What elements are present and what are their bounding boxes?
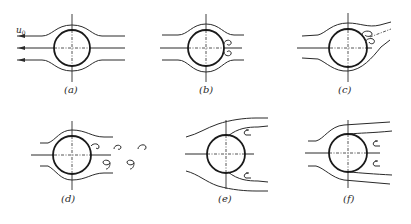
panel-label-e: (e) [218,193,232,204]
panel-e: (e) [185,118,268,204]
vortex-lower-icon [244,173,251,178]
vortex-upper-icon [244,130,251,135]
panel-label-f: (f) [343,193,355,204]
panel-label-d: (d) [61,193,75,204]
vortex-lower-icon [373,161,380,166]
arrow-icon [18,46,25,50]
vortex-lower-icon [103,160,110,169]
vortex-upper-icon [373,141,380,146]
vortex-upper-icon [138,145,146,150]
inflow-velocity-label: u0 [16,25,26,36]
wake-dividing-line [370,29,391,37]
panel-d: (d) [31,121,146,204]
vortex-lower-icon [224,51,231,56]
panel-b: (b) [160,14,244,95]
panel-label-c: (c) [338,84,352,95]
streamline-upper-outer [308,122,390,141]
streamline-lower-outer [308,166,390,184]
arrow-icon [18,58,25,62]
vortex-upper-icon [114,145,121,149]
streamline-lower-inner [350,172,392,175]
streamline-upper-inner [350,131,392,134]
panel-label-a: (a) [64,84,78,95]
vortex-lower-icon [127,160,134,169]
cylinder-flow-diagram: u0 (a) (b) (c) [0,0,411,224]
vortex-upper-icon [224,40,231,45]
panel-label-b: (b) [199,84,213,95]
panel-c: (c) [297,13,391,95]
vortex-upper-icon [91,144,99,149]
panel-a: u0 (a) [16,14,125,95]
panel-f: (f) [305,120,392,204]
